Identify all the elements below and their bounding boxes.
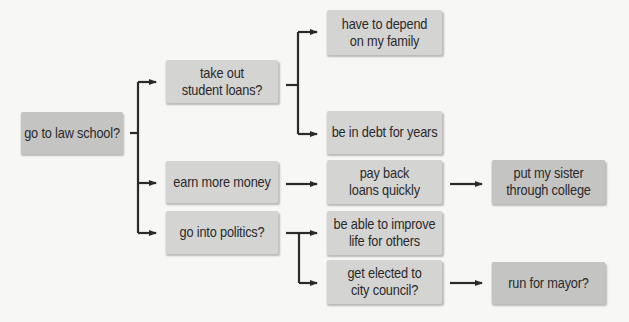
node-label: get elected to city council? — [347, 265, 421, 299]
node-label: take out student loans? — [182, 65, 263, 99]
node-label: go into politics? — [180, 224, 265, 241]
decision-tree-diagram: go to law school? take out student loans… — [0, 0, 629, 322]
node-take-out-student-loans: take out student loans? — [166, 60, 279, 103]
node-improve-life-for-others: be able to improve life for others — [327, 211, 442, 255]
node-label: be able to improve life for others — [334, 216, 436, 250]
node-elected-city-council: get elected to city council? — [327, 260, 442, 304]
node-label: go to law school? — [24, 125, 120, 142]
node-label: be in debt for years — [332, 124, 438, 141]
node-label: pay back loans quickly — [349, 165, 420, 199]
node-label: run for mayor? — [508, 275, 589, 292]
node-label: put my sister through college — [506, 165, 591, 199]
node-go-into-politics: go into politics? — [166, 211, 279, 254]
node-run-for-mayor: run for mayor? — [492, 262, 606, 304]
node-label: have to depend on my family — [342, 16, 428, 50]
node-label: earn more money — [173, 174, 270, 191]
node-go-to-law-school: go to law school? — [21, 112, 123, 154]
node-earn-more-money: earn more money — [166, 161, 279, 203]
node-debt-for-years: be in debt for years — [327, 111, 442, 154]
node-put-sister-through-college: put my sister through college — [492, 160, 606, 204]
node-pay-back-loans: pay back loans quickly — [327, 160, 442, 204]
node-depend-on-family: have to depend on my family — [327, 10, 442, 55]
